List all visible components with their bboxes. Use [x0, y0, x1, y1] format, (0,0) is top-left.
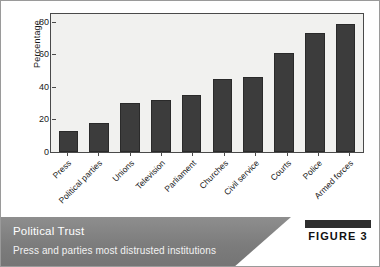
figure-badge-bar [305, 220, 371, 228]
bar-slot [176, 14, 207, 152]
bar [182, 95, 202, 152]
bar [59, 131, 79, 152]
chart-region: Percentage 020406080 PressPolitical part… [1, 1, 380, 217]
bar [151, 100, 171, 152]
bar [243, 77, 263, 152]
caption-subtitle: Press and parties most distrusted instit… [13, 245, 216, 256]
bar-slot [207, 14, 238, 152]
bar [274, 53, 294, 152]
y-axis-title: Percentage [32, 0, 42, 89]
figure-badge: FIGURE 3 [305, 220, 371, 242]
bar-slot [299, 14, 330, 152]
bar [336, 24, 356, 152]
bars-layer [51, 14, 363, 152]
plot-area: 020406080 [50, 13, 364, 153]
bar-slot [84, 14, 115, 152]
caption-title: Political Trust [13, 225, 84, 237]
bar [120, 103, 140, 152]
bar-slot [330, 14, 361, 152]
bar [213, 79, 233, 152]
bar-slot [145, 14, 176, 152]
figure-container: Percentage 020406080 PressPolitical part… [0, 0, 380, 267]
bar-slot [115, 14, 146, 152]
bar-slot [53, 14, 84, 152]
bar-slot [269, 14, 300, 152]
figure-badge-label: FIGURE 3 [305, 230, 371, 242]
bar-slot [238, 14, 269, 152]
bar [89, 123, 109, 152]
bar [305, 33, 325, 152]
x-axis-labels: PressPolitical partiesUnionsTelevisionPa… [50, 154, 364, 216]
